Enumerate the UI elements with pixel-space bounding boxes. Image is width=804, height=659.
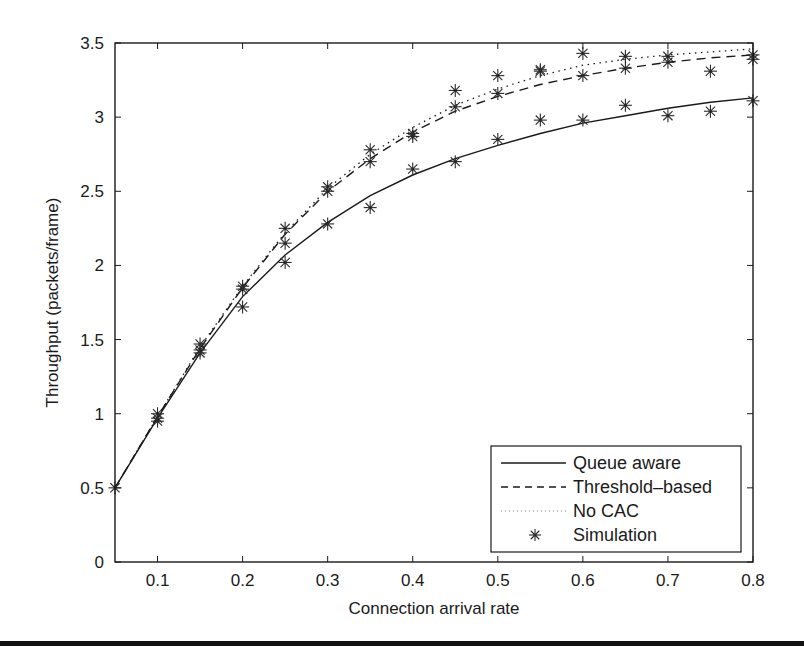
simulation-marker-icon <box>661 109 674 122</box>
simulation-marker-icon <box>619 50 632 63</box>
simulation-marker-icon <box>236 300 249 313</box>
simulation-marker-icon <box>661 50 674 63</box>
simulation-marker-icon <box>534 63 547 76</box>
x-tick-label: 0.6 <box>571 571 595 590</box>
simulation-marker-icon <box>704 105 717 118</box>
legend-label-no-cac: No CAC <box>573 501 639 521</box>
simulation-marker-icon <box>151 407 164 420</box>
simulation-marker-icon <box>619 62 632 75</box>
bottom-divider-rule <box>0 641 804 646</box>
legend-asterisk-icon <box>529 529 541 541</box>
simulation-marker-icon <box>364 155 377 168</box>
series-line-queue-aware <box>115 98 753 488</box>
series-line-threshold-based <box>115 55 753 488</box>
simulation-marker-icon <box>449 84 462 97</box>
chart-legend: Queue awareThreshold–basedNo CACSimulati… <box>491 446 741 552</box>
y-axis-label: Throughput (packets/frame) <box>43 198 62 408</box>
simulation-marker-icon <box>449 100 462 113</box>
y-tick-label: 3 <box>95 108 104 127</box>
y-tick-label: 0.5 <box>80 479 104 498</box>
x-tick-label: 0.8 <box>741 571 765 590</box>
legend-label-threshold-based: Threshold–based <box>573 477 712 497</box>
simulation-marker-icon <box>279 237 292 250</box>
legend-label-simulation: Simulation <box>573 525 657 545</box>
simulation-marker-icon <box>279 222 292 235</box>
x-tick-label: 0.4 <box>401 571 425 590</box>
simulation-marker-icon <box>491 69 504 82</box>
x-tick-label: 0.2 <box>231 571 255 590</box>
simulation-marker-icon <box>279 256 292 269</box>
simulation-marker-icon <box>194 338 207 351</box>
simulation-marker-icon <box>534 114 547 127</box>
y-tick-label: 2.5 <box>80 182 104 201</box>
simulation-marker-icon <box>576 114 589 127</box>
simulation-marker-icon <box>321 180 334 193</box>
x-axis-label: Connection arrival rate <box>348 599 519 618</box>
simulation-marker-icon <box>576 69 589 82</box>
simulation-marker-icon <box>364 143 377 156</box>
simulation-marker-icon <box>364 201 377 214</box>
simulation-marker-icon <box>406 127 419 140</box>
simulation-marker-icon <box>321 217 334 230</box>
simulation-markers <box>109 47 760 494</box>
y-tick-label: 1.5 <box>80 331 104 350</box>
y-tick-label: 3.5 <box>80 34 104 53</box>
x-tick-label: 0.3 <box>316 571 340 590</box>
x-tick-label: 0.5 <box>486 571 510 590</box>
simulation-marker-icon <box>704 65 717 78</box>
simulation-marker-icon <box>449 155 462 168</box>
simulation-marker-icon <box>406 163 419 176</box>
throughput-chart: 0.10.20.30.40.50.60.70.8 00.511.522.533.… <box>0 0 804 659</box>
simulation-marker-icon <box>236 280 249 293</box>
simulation-marker-icon <box>491 133 504 146</box>
plot-series-group <box>115 49 753 488</box>
y-tick-label: 0 <box>95 553 104 572</box>
y-tick-label: 2 <box>95 256 104 275</box>
simulation-marker-icon <box>491 87 504 100</box>
simulation-marker-icon <box>619 99 632 112</box>
y-tick-label: 1 <box>95 405 104 424</box>
x-tick-label: 0.7 <box>656 571 680 590</box>
legend-label-queue-aware: Queue aware <box>573 453 681 473</box>
x-tick-label: 0.1 <box>146 571 170 590</box>
series-line-no-cac <box>115 49 753 488</box>
